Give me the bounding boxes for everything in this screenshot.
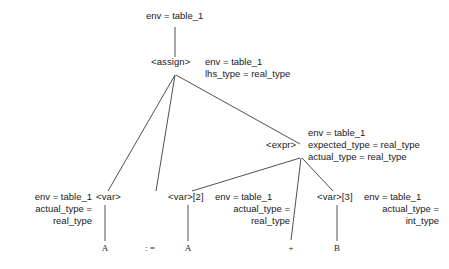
edge-expr-var2b bbox=[192, 158, 300, 191]
node-annotation-expr-line2: expected_type = real_type bbox=[308, 139, 420, 151]
root-annotation: env = table_1 bbox=[146, 10, 203, 22]
node-label-assign: <assign> bbox=[151, 56, 190, 69]
node-label-expr: <expr> bbox=[266, 139, 296, 152]
parse-tree-diagram: env = table_1 <assign> env = table_1 lhs… bbox=[0, 0, 449, 269]
tree-edges bbox=[0, 0, 449, 269]
terminal-a1: A bbox=[95, 243, 115, 253]
node-annotation-var1-line2: actual_type = bbox=[0, 203, 92, 215]
terminal-plus: + bbox=[281, 243, 301, 253]
node-annotation-var2-line1: env = table_1 bbox=[215, 191, 272, 203]
node-annotation-var1-line3: real_type bbox=[0, 215, 92, 227]
node-label-var1: <var> bbox=[96, 191, 121, 204]
terminal-assignop: : = bbox=[138, 243, 162, 253]
node-annotation-var2-line2: actual_type = bbox=[215, 203, 290, 215]
node-annotation-var3-line1: env = table_1 bbox=[364, 191, 421, 203]
node-annotation-assign-line2: lhs_type = real_type bbox=[205, 68, 290, 80]
terminal-b: B bbox=[327, 243, 347, 253]
node-annotation-var1-line1: env = table_1 bbox=[0, 191, 92, 203]
node-label-var2: <var>[2] bbox=[168, 191, 204, 204]
node-annotation-expr-line3: actual_type = real_type bbox=[308, 151, 407, 163]
edge-assign-var1 bbox=[108, 75, 175, 191]
edge-assign-expr bbox=[176, 75, 300, 144]
node-annotation-var3-line2: actual_type = bbox=[364, 203, 439, 215]
node-annotation-var2-line3: real_type bbox=[215, 215, 290, 227]
edge-assign-var2 bbox=[156, 75, 175, 191]
terminal-a2: A bbox=[178, 243, 198, 253]
node-annotation-expr-line1: env = table_1 bbox=[308, 127, 365, 139]
node-annotation-var3-line3: int_type bbox=[364, 215, 439, 227]
edge-expr-plus bbox=[291, 158, 301, 240]
node-annotation-assign-line1: env = table_1 bbox=[205, 56, 262, 68]
node-label-var3: <var>[3] bbox=[317, 191, 353, 204]
